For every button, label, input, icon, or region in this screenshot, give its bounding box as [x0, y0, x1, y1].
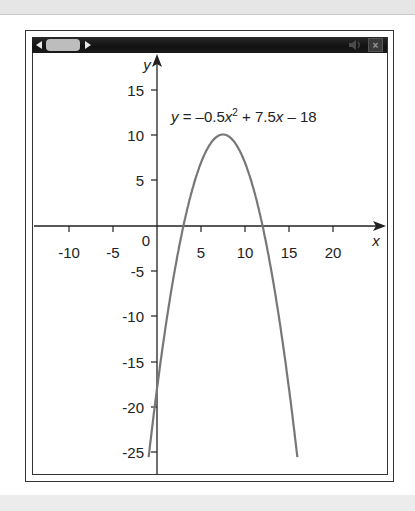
y-tick-label: -15	[122, 354, 144, 371]
chart-plot: -10 -5 5 10 15 20 0 15 10 5 -5 -10 -15 -…	[0, 0, 415, 511]
y-tick-label: -5	[131, 263, 144, 280]
x-ticks	[69, 226, 333, 232]
y-tick-label: -10	[122, 308, 144, 325]
y-tick-label: -25	[122, 444, 144, 461]
y-tick-label: 10	[127, 127, 144, 144]
x-tick-label: 20	[325, 244, 342, 261]
x-axis-label: x	[371, 232, 380, 249]
x-tick-label: -10	[58, 244, 80, 261]
x-tick-label: 10	[237, 244, 254, 261]
y-tick-label: -20	[122, 399, 144, 416]
y-tick-label: 15	[127, 82, 144, 99]
bottom-band	[0, 495, 415, 511]
x-tick-label: 5	[197, 244, 205, 261]
x-tick-label: -5	[106, 244, 119, 261]
origin-label: 0	[142, 232, 150, 249]
equation-annotation: y = –0.5x2 + 7.5x – 18	[171, 108, 317, 125]
y-tick-label: 5	[136, 172, 144, 189]
x-tick-label: 15	[281, 244, 298, 261]
y-axis-label: y	[142, 56, 152, 73]
parabola-curve	[149, 135, 298, 458]
